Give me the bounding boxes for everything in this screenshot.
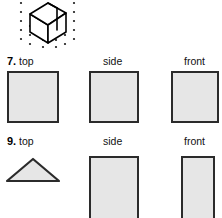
isometric-drawing-panel	[0, 0, 222, 52]
view-label-front: front	[184, 55, 205, 67]
problem-number: 7.	[7, 55, 16, 67]
view-label-side: side	[103, 135, 122, 147]
view-shape-front	[171, 71, 219, 123]
problem-row-9: 9. top side front	[0, 134, 222, 218]
view-label-top: top	[19, 135, 34, 147]
view-shape-front	[181, 156, 215, 218]
problem-7-top-label: 7. top	[7, 55, 34, 67]
problem-number: 9.	[7, 135, 16, 147]
worksheet-page: 7. top side front 9. top side front	[0, 0, 222, 218]
view-label-front: front	[184, 135, 205, 147]
view-label-top: top	[19, 55, 34, 67]
view-shape-side	[89, 156, 139, 218]
problem-row-7: 7. top side front	[0, 54, 222, 130]
triangle-icon	[5, 156, 61, 184]
isometric-cube-figure	[0, 0, 222, 52]
problem-9-top-label: 9. top	[7, 135, 34, 147]
isometric-solid-outline	[30, 3, 66, 43]
view-shape-side	[89, 71, 139, 123]
view-shape-top	[5, 156, 61, 184]
view-label-side: side	[103, 55, 122, 67]
view-shape-top	[7, 71, 59, 123]
